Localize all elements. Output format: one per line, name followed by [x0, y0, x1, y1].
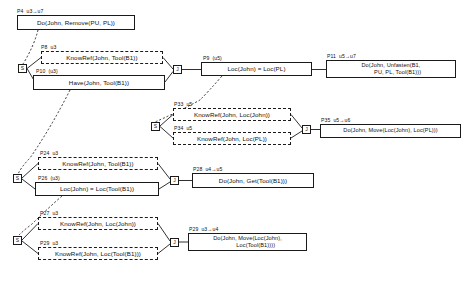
node-tag-p26: P26 (u3)	[38, 175, 60, 181]
node-p26[interactable]: Loc(John) = Loc(Tool(B1))	[35, 182, 159, 196]
edge-p26-j3	[159, 182, 170, 189]
edge-s3-p24	[22, 164, 38, 179]
node-p35[interactable]: Do(John, Move(Loc(John), Loc(PL)))	[320, 124, 461, 138]
junction-s4[interactable]: S	[13, 236, 22, 245]
node-tag-p29b: P29 u3	[40, 240, 58, 246]
edge-s2-p34	[160, 127, 173, 139]
junction-j3[interactable]: J	[170, 176, 179, 185]
edge-p26-s4	[18, 196, 62, 236]
node-tag-p35: P35 u5→u6	[321, 117, 350, 123]
edge-s4-p29b	[22, 241, 38, 254]
edge-s2-p33	[160, 115, 173, 127]
node-tag-p28: P28 u4→u5	[193, 166, 222, 172]
junction-j1[interactable]: J	[173, 65, 182, 74]
node-p11[interactable]: Do(John, Unfasten(B1, PU, PL, Tool(B1)))	[326, 60, 456, 78]
node-tag-p33: P33 u5	[174, 101, 192, 107]
junction-s4-label: S	[16, 238, 19, 243]
node-p29[interactable]: Do(John, Move(Loc(John), Loc(Tool(B1))))	[188, 233, 307, 251]
junction-s3-label: S	[16, 176, 19, 181]
node-p33[interactable]: KnowRef(John, Loc(John))	[173, 108, 291, 121]
edge-p10-j1	[165, 72, 173, 83]
node-p4[interactable]: Do(John, Remove(PU, PL))	[17, 15, 135, 30]
node-p29b[interactable]: KnowRef(John, Loc(Tool(B1)))	[38, 247, 158, 260]
node-tag-p11: P11 u5→u7	[327, 53, 356, 59]
junction-j2[interactable]: J	[302, 125, 311, 134]
edge-p24-j3	[158, 164, 170, 180]
diagram-canvas: P4 u3→u7 Do(John, Remove(PU, PL)) P8 u3 …	[0, 0, 470, 290]
junction-j2-label: J	[305, 127, 308, 132]
node-tag-p24: P24 u3	[40, 150, 58, 156]
node-tag-p8: P8 u3	[41, 44, 56, 50]
edge-s3-p26	[22, 179, 35, 189]
node-p27[interactable]: KnowRef(John, Loc(John))	[38, 217, 158, 230]
node-tag-p4: P4 u3→u7	[17, 8, 43, 14]
node-p24[interactable]: KnowRef(John, Tool(B1))	[38, 157, 158, 170]
edge-s1-p8	[27, 58, 41, 69]
node-tag-p10: P10 (u3)	[36, 68, 58, 74]
node-p9[interactable]: Loc(John) = Loc(PL)	[201, 62, 312, 76]
node-p8[interactable]: KnowRef(John, Tool(B1))	[41, 51, 163, 64]
junction-s1-label: S	[21, 66, 24, 71]
edge-p4-s1	[23, 30, 38, 64]
edge-p8-j1	[163, 58, 173, 70]
junction-s1[interactable]: S	[18, 64, 27, 73]
node-p34[interactable]: KnowRef(John, Loc(PL))	[173, 132, 291, 145]
edge-p29b-j4	[158, 244, 170, 254]
edge-p33-j2	[291, 115, 302, 129]
junction-s3[interactable]: S	[13, 174, 22, 183]
edge-p34-j2	[291, 131, 302, 138]
junction-j4-label: J	[173, 240, 176, 245]
junction-s2[interactable]: S	[151, 122, 160, 131]
node-tag-p29: P29 u3→u4	[189, 226, 218, 232]
node-p10[interactable]: Have(John, Tool(B1))	[33, 75, 165, 90]
edge-p27-j4	[158, 224, 170, 242]
node-tag-p34: P34 u5	[174, 125, 192, 131]
junction-j3-label: J	[173, 178, 176, 183]
edge-s4-p27	[22, 224, 38, 241]
junction-s2-label: S	[154, 124, 157, 129]
junction-j1-label: J	[176, 67, 179, 72]
node-tag-p27: P27 u3	[40, 210, 58, 216]
node-tag-p9: P9 (u5)	[203, 55, 222, 61]
junction-j4[interactable]: J	[170, 238, 179, 247]
node-p28[interactable]: Do(John, Get(Tool(B1)))	[192, 173, 314, 188]
